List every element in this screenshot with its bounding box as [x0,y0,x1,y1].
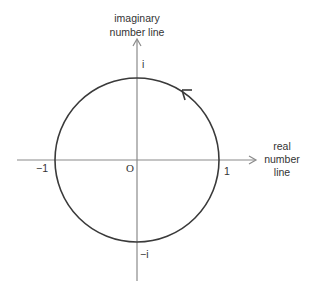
real-axis-label-1: real [273,140,291,152]
unit-circle-diagram: imaginary number line real number line O… [0,0,312,296]
minus-one-label: −1 [36,162,48,174]
plus-i-label: i [142,58,144,70]
imaginary-axis-label-1: imaginary [114,12,160,24]
origin-label: O [126,162,134,174]
real-axis-label-3: line [274,166,291,178]
imaginary-axis-label-2: number line [110,26,165,38]
minus-i-label: −i [140,248,148,260]
real-axis-label-2: number [264,153,300,165]
plus-one-label: 1 [224,165,230,177]
